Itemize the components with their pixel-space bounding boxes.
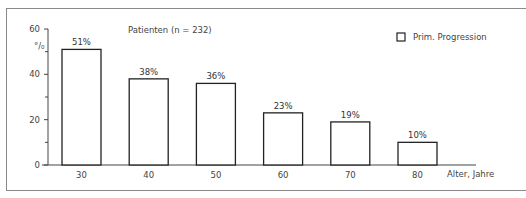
y-tick-label: 0 bbox=[35, 160, 40, 170]
x-tick-label: 40 bbox=[143, 170, 154, 180]
legend-label: Prim. Progression bbox=[413, 32, 487, 42]
x-axis: 304050607080 bbox=[42, 165, 476, 180]
x-tick-label: 30 bbox=[76, 170, 87, 180]
bar-value-label: 36% bbox=[206, 71, 225, 81]
bar bbox=[398, 142, 437, 165]
y-axis-label: °/₀ bbox=[34, 41, 45, 51]
legend-swatch bbox=[397, 33, 405, 41]
legend: Prim. Progression bbox=[397, 32, 487, 42]
x-tick-label: 70 bbox=[345, 170, 356, 180]
y-tick-label: 20 bbox=[29, 115, 40, 125]
x-tick-label: 50 bbox=[210, 170, 221, 180]
bar-value-label: 51% bbox=[72, 37, 91, 47]
x-tick-label: 60 bbox=[278, 170, 289, 180]
bar bbox=[264, 113, 303, 165]
bar bbox=[62, 49, 101, 165]
y-tick-label: 60 bbox=[29, 24, 40, 34]
bar-value-label: 19% bbox=[341, 110, 360, 120]
bars: 51%38%36%23%19%10% bbox=[62, 37, 437, 165]
bar bbox=[331, 122, 370, 165]
bar-value-label: 23% bbox=[274, 101, 293, 111]
bar-value-label: 38% bbox=[139, 67, 158, 77]
y-tick-label: 40 bbox=[29, 69, 40, 79]
bar bbox=[196, 83, 235, 165]
bar-value-label: 10% bbox=[408, 130, 427, 140]
bar bbox=[129, 79, 168, 165]
x-axis-label: Alter, Jahre bbox=[447, 169, 494, 179]
chart-title: Patienten (n = 232) bbox=[128, 25, 212, 35]
x-tick-label: 80 bbox=[412, 170, 423, 180]
